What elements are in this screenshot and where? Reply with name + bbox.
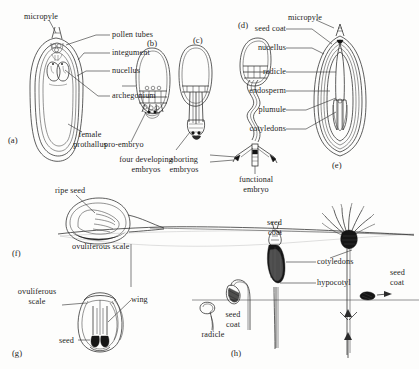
label-seed-coat-h1-line1: seed (216, 310, 250, 319)
label-hypocotyl: hypocotyl (317, 278, 351, 287)
label-integument: integument (112, 48, 150, 57)
panel-a-leaders (49, 20, 110, 132)
panel-f-drawing (58, 198, 414, 246)
panel-d-leaders (210, 155, 236, 162)
panel-id-g: (g) (12, 348, 22, 358)
label-functional-line1: functional (228, 175, 284, 184)
label-ripe-seed: ripe seed (55, 186, 85, 195)
label-seed-coat-h3-line2: coat (390, 278, 404, 287)
figure-canvas: micropyle pollen tubes integument nucell… (0, 0, 419, 369)
panel-c-drawing (179, 45, 212, 140)
label-seed-coat-h2-line1: seed (248, 218, 282, 227)
panel-f-leaders (76, 195, 131, 287)
label-seed-coat-h3-line1: seed (390, 268, 405, 277)
panel-g-leaders (62, 300, 131, 340)
label-plumule: plumule (236, 105, 286, 114)
label-cotyledons-e: cotyledons (226, 124, 286, 133)
label-micropyle-a: micropyle (24, 12, 58, 21)
label-seed-coat-h1-line2: coat (216, 320, 250, 329)
panel-id-b: (b) (147, 38, 157, 48)
label-radicle-e: radicle (236, 67, 286, 76)
label-ovuliferous-scale-g-line1: ovuliferous (10, 287, 64, 296)
label-micropyle-e: micropyle (288, 13, 322, 22)
label-seed-coat-e: seed coat (236, 24, 286, 33)
panel-id-h: (h) (231, 348, 241, 358)
label-seed-g: seed (42, 336, 74, 345)
label-seed-coat-h2-line2: coat (248, 228, 282, 237)
label-nucellus-e: nucellus (236, 43, 286, 52)
label-radicle-h: radicle (190, 330, 236, 339)
label-cotyledons-h: cotyledons (317, 257, 353, 266)
panel-id-e: (e) (332, 160, 342, 170)
panel-e-leaders (286, 20, 336, 129)
label-aborting-line1: aborting (158, 155, 210, 164)
panel-id-c: (c) (193, 35, 203, 45)
label-pro-embryo: pro-embryo (104, 140, 144, 149)
panel-b-drawing (136, 48, 170, 118)
panel-e-drawing (314, 24, 366, 156)
label-female-prothallus-line1: female (60, 130, 120, 139)
diagram-artwork (0, 0, 419, 369)
panel-id-a: (a) (8, 135, 18, 145)
panel-id-f: (f) (12, 248, 21, 258)
panel-g-drawing (78, 293, 123, 352)
label-nucellus-a: nucellus (112, 66, 140, 75)
label-ovuliferous-scale-f: ovuliferous scale (72, 242, 129, 251)
label-wing: wing (131, 295, 148, 304)
label-functional-line2: embryo (228, 185, 284, 194)
label-ovuliferous-scale-g-line2: scale (10, 297, 64, 306)
label-aborting-line2: embryos (158, 165, 210, 174)
label-archegonium: archegonium (112, 91, 156, 100)
label-endosperm: endosperm (228, 86, 286, 95)
panel-c-leaders (176, 132, 190, 150)
